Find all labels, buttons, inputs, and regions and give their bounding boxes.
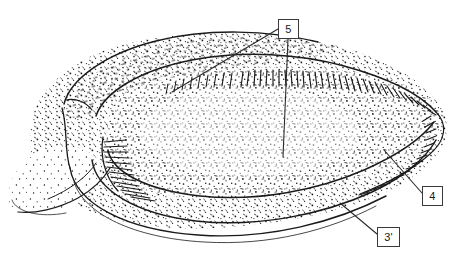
callout-label-4[interactable]: 4 bbox=[422, 186, 443, 206]
anatomical-drawing bbox=[0, 0, 464, 258]
figure-container: 5 4 3' bbox=[0, 0, 464, 258]
callout-label-5[interactable]: 5 bbox=[278, 19, 299, 39]
callout-label-3-prime[interactable]: 3' bbox=[377, 227, 400, 247]
